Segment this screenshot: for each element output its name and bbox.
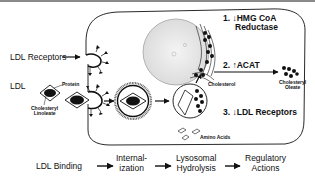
coated-pit-upper (86, 45, 109, 76)
coated-vesicle (115, 83, 151, 119)
ldl-particle (40, 85, 62, 105)
label-protein: Protein (62, 82, 79, 87)
flow-step-ldl-binding: LDL Binding (36, 162, 82, 172)
cholesteryl-oleate-droplets (282, 66, 299, 78)
label-ldl: LDL (10, 82, 26, 91)
label-amino-acids: Amino Acids (200, 135, 230, 140)
regulatory-action-hmg-coa: 1. ↓HMG CoA Reductase (223, 14, 278, 33)
amino-acid-fragments (178, 128, 200, 140)
label-cholesteryl-linoleate: Cholesteryl Linoleate (31, 106, 58, 117)
label-cholesterol: Cholesterol (208, 82, 236, 87)
bound-ldl-particle (65, 92, 89, 108)
regulatory-action-acat: 2. ↑ACAT (223, 61, 260, 70)
lysosome (173, 84, 207, 118)
regulatory-action-ldl-receptors: 3. ↓LDL Receptors (223, 108, 297, 117)
flow-step-internalization: Internal- ization (116, 154, 147, 174)
flow-step-lysosomal-hydrolysis: Lysosomal Hydrolysis (176, 154, 216, 174)
label-ldl-receptors: LDL Receptors (10, 53, 66, 62)
flow-step-regulatory-actions: Regulatory Actions (245, 154, 286, 174)
label-cholesteryl-oleate: Cholesteryl Oleate (279, 80, 306, 91)
nucleus (143, 19, 209, 85)
